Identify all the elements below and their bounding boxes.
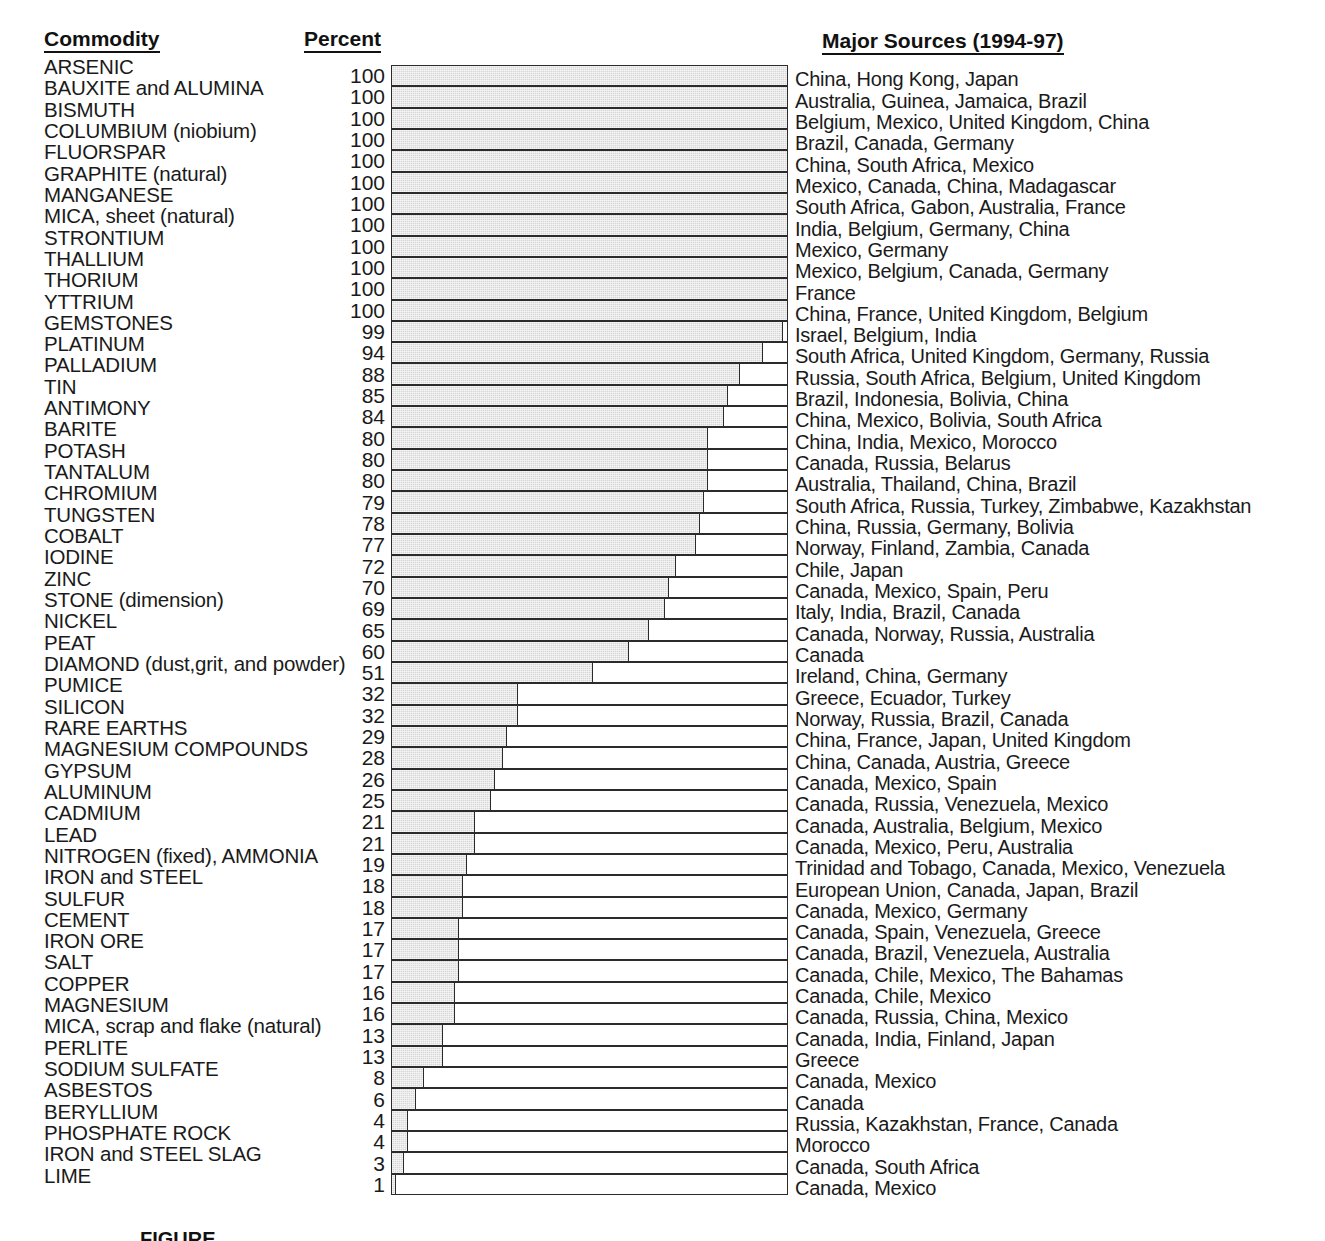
- major-sources-value: India, Belgium, Germany, China: [795, 219, 1069, 239]
- bar-fill: [392, 237, 787, 256]
- bar-fill: [392, 492, 704, 511]
- bar-row: [391, 427, 788, 448]
- bar-fill: [392, 301, 787, 320]
- percent-value: 28: [362, 747, 385, 768]
- bar-fill: [392, 1004, 455, 1023]
- bar-row: [391, 278, 788, 299]
- bar-fill: [392, 578, 669, 597]
- bar-track: [391, 811, 788, 832]
- bar-fill: [392, 791, 491, 810]
- major-sources-value: Canada, Norway, Russia, Australia: [795, 624, 1094, 644]
- major-sources-value: Mexico, Germany: [795, 240, 948, 260]
- bar-track: [391, 321, 788, 342]
- percent-value: 100: [350, 65, 385, 86]
- major-sources-value: Ireland, China, Germany: [795, 666, 1007, 686]
- bar-fill: [392, 535, 696, 554]
- bar-track: [391, 406, 788, 427]
- percent-value: 8: [373, 1067, 385, 1088]
- percent-value: 100: [350, 129, 385, 150]
- bar-track: [391, 982, 788, 1003]
- major-sources-value: Canada, Spain, Venezuela, Greece: [795, 922, 1101, 942]
- bar-fill: [392, 876, 463, 895]
- bar-track: [391, 960, 788, 981]
- percent-value: 77: [362, 534, 385, 555]
- percent-value: 3: [373, 1153, 385, 1174]
- major-sources-value: Canada, Mexico, Spain: [795, 773, 997, 793]
- major-sources-value: Trinidad and Tobago, Canada, Mexico, Ven…: [795, 858, 1225, 878]
- percent-value: 94: [362, 342, 385, 363]
- percent-value: 65: [362, 620, 385, 641]
- percent-value: 29: [362, 726, 385, 747]
- major-sources-value: Canada, Chile, Mexico, The Bahamas: [795, 965, 1123, 985]
- major-sources-value: Canada, Mexico: [795, 1071, 936, 1091]
- bar-row: [391, 1067, 788, 1088]
- import-reliance-bar-chart: [391, 65, 788, 1195]
- bar-row: [391, 897, 788, 918]
- major-sources-value: Norway, Finland, Zambia, Canada: [795, 538, 1089, 558]
- major-sources-value: Norway, Russia, Brazil, Canada: [795, 709, 1068, 729]
- bar-fill: [392, 258, 787, 277]
- bar-track: [391, 65, 788, 86]
- bar-track: [391, 385, 788, 406]
- bar-fill: [392, 642, 629, 661]
- bar-fill: [392, 855, 467, 874]
- bar-track: [391, 278, 788, 299]
- percent-value: 88: [362, 364, 385, 385]
- bar-track: [391, 86, 788, 107]
- major-sources-value: Mexico, Belgium, Canada, Germany: [795, 261, 1108, 281]
- major-sources-value: Russia, South Africa, Belgium, United Ki…: [795, 368, 1201, 388]
- bar-row: [391, 491, 788, 512]
- percent-value: 72: [362, 556, 385, 577]
- percent-value: 85: [362, 385, 385, 406]
- bar-fill: [392, 706, 518, 725]
- major-sources-value: China, Hong Kong, Japan: [795, 69, 1018, 89]
- percent-value: 100: [350, 257, 385, 278]
- bar-fill: [392, 386, 728, 405]
- bar-row: [391, 1152, 788, 1173]
- major-sources-value: South Africa, Gabon, Australia, France: [795, 197, 1126, 217]
- bar-fill: [392, 364, 740, 383]
- bar-fill: [392, 87, 787, 106]
- percent-value: 4: [373, 1131, 385, 1152]
- bar-fill: [392, 173, 787, 192]
- bar-row: [391, 854, 788, 875]
- major-sources-value: Russia, Kazakhstan, France, Canada: [795, 1114, 1118, 1134]
- bar-track: [391, 918, 788, 939]
- bar-fill: [392, 940, 459, 959]
- major-sources-value: Canada, Russia, Belarus: [795, 453, 1010, 473]
- bar-row: [391, 513, 788, 534]
- bar-track: [391, 363, 788, 384]
- figure-caption: FIGURE: [140, 1228, 216, 1241]
- percent-value: 99: [362, 321, 385, 342]
- bar-row: [391, 342, 788, 363]
- major-sources-value: Greece, Ecuador, Turkey: [795, 688, 1010, 708]
- bar-track: [391, 513, 788, 534]
- major-sources-value: Canada, Mexico: [795, 1178, 936, 1198]
- bar-track: [391, 619, 788, 640]
- percent-value: 100: [350, 150, 385, 171]
- bar-row: [391, 214, 788, 235]
- major-sources-value: Canada, Russia, Venezuela, Mexico: [795, 794, 1108, 814]
- bar-row: [391, 683, 788, 704]
- major-sources-value: Greece: [795, 1050, 859, 1070]
- bar-fill: [392, 279, 787, 298]
- bar-track: [391, 236, 788, 257]
- major-sources-value: South Africa, Russia, Turkey, Zimbabwe, …: [795, 496, 1251, 516]
- bar-fill: [392, 770, 495, 789]
- major-sources-value: France: [795, 283, 856, 303]
- bar-row: [391, 150, 788, 171]
- major-sources-value: Canada, Mexico, Germany: [795, 901, 1027, 921]
- percent-value: 69: [362, 598, 385, 619]
- bar-row: [391, 833, 788, 854]
- bar-track: [391, 641, 788, 662]
- bar-track: [391, 193, 788, 214]
- percent-value: 84: [362, 406, 385, 427]
- bar-fill: [392, 1068, 424, 1087]
- major-sources-value: Canada, Mexico, Peru, Australia: [795, 837, 1073, 857]
- bar-row: [391, 1131, 788, 1152]
- bar-fill: [392, 151, 787, 170]
- major-sources-value: China, India, Mexico, Morocco: [795, 432, 1057, 452]
- major-sources-value: Canada, India, Finland, Japan: [795, 1029, 1055, 1049]
- bar-track: [391, 577, 788, 598]
- major-sources-value: Brazil, Canada, Germany: [795, 133, 1014, 153]
